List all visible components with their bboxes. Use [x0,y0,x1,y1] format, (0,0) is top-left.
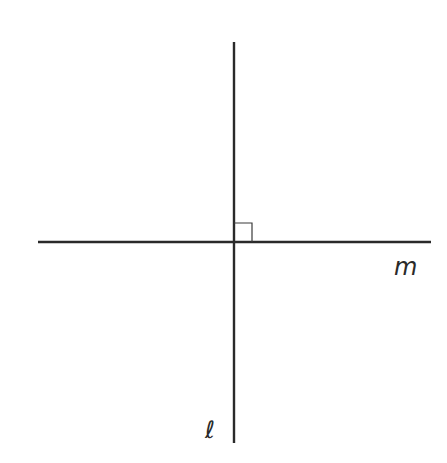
right-angle-marker [234,223,252,242]
label-l: ℓ [204,416,215,444]
perpendicular-lines-diagram: m ℓ [0,0,447,463]
label-m: m [394,253,417,281]
